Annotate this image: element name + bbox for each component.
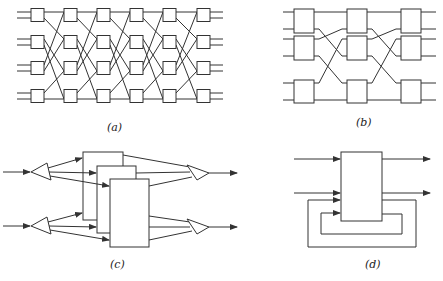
switch-box	[130, 9, 143, 22]
network-link	[314, 29, 347, 39]
switch-box	[163, 9, 176, 22]
switch-box	[64, 36, 77, 49]
switch-box	[347, 9, 367, 33]
network-link	[314, 39, 347, 83]
network-link	[176, 12, 197, 65]
switch-box	[97, 62, 110, 75]
combine-line	[149, 231, 192, 240]
switch-box	[401, 36, 421, 60]
network-link	[44, 45, 64, 99]
switch-box	[197, 90, 210, 103]
network-link	[367, 39, 401, 83]
panel-c-parallel-units	[3, 152, 237, 247]
switch-box	[64, 62, 77, 75]
network-link	[367, 29, 401, 39]
switch-box	[294, 9, 314, 33]
panel-d-label: (d)	[365, 258, 381, 271]
switch-box	[31, 36, 44, 49]
network-link	[110, 12, 130, 65]
panel-a-label: (a)	[107, 121, 122, 134]
split-line	[48, 158, 82, 168]
network-link	[367, 29, 401, 56]
switch-box	[197, 9, 210, 22]
switch-box	[197, 36, 210, 49]
network-link	[314, 29, 347, 56]
panel-b-label: (b)	[356, 116, 372, 129]
combine-line	[136, 172, 190, 173]
switch-box	[294, 80, 314, 103]
panel-b-network	[283, 9, 436, 103]
switch-box	[130, 36, 143, 49]
switch-box	[31, 9, 44, 22]
panel-a-network	[17, 9, 223, 103]
network-link	[143, 12, 163, 65]
splitter-bottom-icon	[31, 217, 51, 234]
switch-box	[64, 90, 77, 103]
splitter-top-icon	[31, 163, 51, 180]
figure-canvas: (a) (b) (c)	[0, 0, 443, 281]
network-link	[44, 12, 64, 65]
combine-line	[149, 216, 190, 222]
unit-main	[341, 152, 382, 221]
panel-d-feedback-unit	[294, 152, 430, 247]
unit-3	[110, 179, 149, 247]
switch-box	[130, 62, 143, 75]
switch-box	[163, 36, 176, 49]
switch-box	[97, 90, 110, 103]
switch-box	[97, 9, 110, 22]
switch-box	[401, 9, 421, 33]
switch-box	[401, 80, 421, 103]
network-link	[176, 45, 197, 99]
switch-box	[163, 62, 176, 75]
switch-box	[97, 36, 110, 49]
network-link	[110, 45, 130, 99]
panel-c-label: (c)	[110, 258, 125, 271]
network-link	[143, 45, 163, 99]
switch-box	[31, 90, 44, 103]
switch-box	[347, 80, 367, 103]
combine-line	[123, 155, 190, 167]
switch-box	[294, 36, 314, 60]
split-line	[48, 213, 82, 222]
switch-box	[197, 62, 210, 75]
switch-box	[31, 62, 44, 75]
switch-box	[347, 36, 367, 60]
network-link	[77, 12, 97, 65]
combine-line	[149, 177, 192, 186]
switch-box	[64, 9, 77, 22]
split-line	[49, 226, 96, 227]
switch-box	[130, 90, 143, 103]
network-link	[77, 45, 97, 99]
switch-box	[163, 90, 176, 103]
